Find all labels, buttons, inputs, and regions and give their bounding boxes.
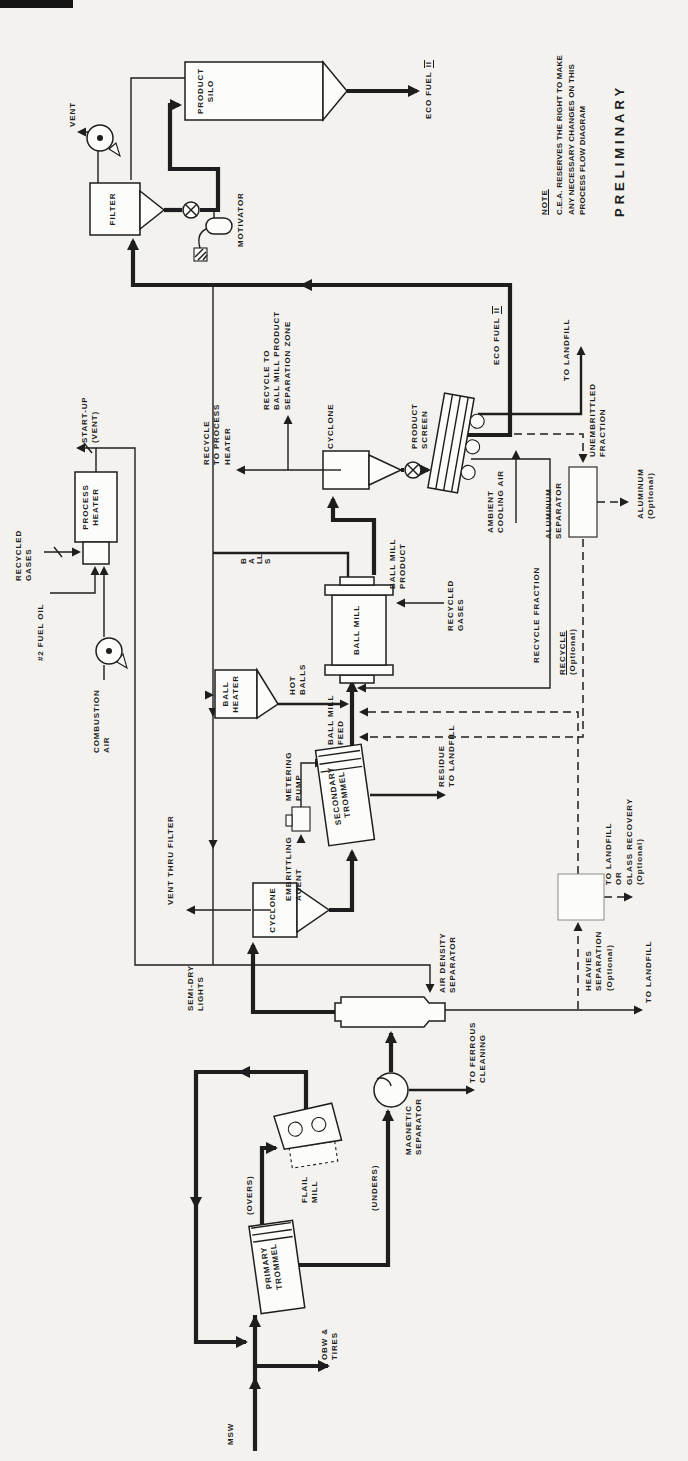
air-density-separator-label: AIR DENSITY SEPARATOR xyxy=(438,932,459,993)
recycled-gases-to-heater-line xyxy=(44,547,81,557)
ferrous-line xyxy=(409,1086,475,1095)
filter xyxy=(90,183,164,235)
silo-vent-line xyxy=(131,78,185,180)
semi-dry-lights-label: SEMI-DRY LIGHTS xyxy=(186,965,207,1011)
filter-label: FILTER xyxy=(108,183,118,235)
aluminum-separator xyxy=(569,467,597,537)
air-density-separator xyxy=(335,997,445,1027)
residue-line xyxy=(370,791,446,800)
cyclone-1-label: CYCLONE xyxy=(268,883,278,937)
product-silo-label: PRODUCT SILO xyxy=(196,62,217,120)
cyclone-2-label: CYCLONE xyxy=(326,404,336,449)
process-heater-label: PROCESS HEATER xyxy=(81,472,102,542)
balls-label: BALLS xyxy=(240,554,273,564)
scanned-process-flow-diagram: MSW OBW & TIRES PRIMARY TROMMEL (OVERS) … xyxy=(0,0,688,1461)
to-landfill-screen-label: TO LANDFILL xyxy=(562,319,572,381)
product-screen xyxy=(428,393,488,495)
to-ferrous-cleaning-label: TO FERROUS CLEANING xyxy=(468,1022,489,1083)
glass-recovery-line xyxy=(604,893,633,902)
heavies-separation-label: HEAVIES SEPARATION (Optional) xyxy=(584,931,615,991)
aluminum-optional-label: ALUMINUM (Optional) xyxy=(636,468,657,519)
eco-fuel-numeral: II xyxy=(424,60,434,68)
heavies-recycle-line xyxy=(359,708,578,875)
recycle-fraction-label: RECYCLE FRACTION xyxy=(532,567,542,663)
balls-return-line xyxy=(213,553,348,577)
ball-mill-product-line xyxy=(327,496,374,575)
vent-thru-filter-line xyxy=(186,906,251,915)
ambient-cooling-air-line xyxy=(512,450,521,523)
unders-label: (UNDERS) xyxy=(370,1165,380,1211)
fuel-oil-line xyxy=(50,566,100,593)
eco-fuel-duct-label: ECO FUELII xyxy=(492,306,502,365)
diagram-canvas: MSW OBW & TIRES PRIMARY TROMMEL (OVERS) … xyxy=(0,0,688,1461)
overs-line xyxy=(262,1142,278,1229)
semi-dry-lights-line xyxy=(247,942,335,1012)
recycle-to-process-heater-label: RECYCLE TO PROCESS HEATER xyxy=(202,404,233,465)
preliminary-stamp: PRELIMINARY xyxy=(612,84,629,217)
heavies-separation-box xyxy=(558,874,604,920)
ball-mill-product-label: BALL MILL PRODUCT xyxy=(388,539,409,589)
overs-label: (OVERS) xyxy=(245,1175,255,1215)
rotary-valve-filter xyxy=(183,202,199,218)
combustion-air-blower xyxy=(96,638,127,668)
motivator-label: MOTIVATOR xyxy=(236,192,246,247)
ball-mill-feed-line xyxy=(346,680,358,747)
aluminum-separator-label: ALUMINUM SEPARATOR xyxy=(544,482,565,539)
unembrittled-fraction-label: UNEMBRITTLED FRACTION xyxy=(588,383,609,457)
flail-mill xyxy=(273,1103,344,1170)
scan-artifact xyxy=(0,0,73,8)
magnetic-separator xyxy=(374,1073,408,1107)
recycle-optional-word: RECYCLE xyxy=(558,630,567,675)
combustion-air-label: COMBUSTION AIR xyxy=(92,689,113,753)
ball-mill-feed-label: BALL MILL FEED xyxy=(326,695,347,745)
recycled-gases-heater-label: RECYCLED GASES xyxy=(14,530,35,581)
eco-fuel-text: ECO FUEL xyxy=(492,317,501,365)
vent-thru-filter-label: VENT THRU FILTER xyxy=(166,815,176,905)
heavies-to-landfill-line xyxy=(445,1006,643,1015)
msw-feed-line xyxy=(249,1315,330,1451)
embrittling-agent-label: EMBRITTLING AGENT xyxy=(284,836,305,901)
cyclone2-gas-lines xyxy=(236,415,323,475)
vent-label: VENT xyxy=(68,102,78,127)
recycled-gases-to-mill-line xyxy=(396,599,444,608)
note-title: NOTE xyxy=(540,189,550,215)
ball-mill-label: BALL MILL xyxy=(352,595,362,665)
cyclone-2 xyxy=(323,451,401,489)
fuel-oil-label: #2 FUEL OIL xyxy=(36,604,46,661)
motivator xyxy=(194,210,232,261)
ambient-cooling-air-label: AMBIENT COOLING AIR xyxy=(486,470,507,533)
metering-pump xyxy=(286,807,310,831)
rotary-valve-screen xyxy=(405,462,421,478)
flail-mill-label: FLAIL MILL xyxy=(300,1176,321,1203)
aluminum-product-line xyxy=(597,498,629,507)
residue-to-landfill-label: RESIDUE TO LANDFILL xyxy=(437,725,458,787)
silo-discharge-line xyxy=(347,85,420,97)
magnetic-separator-label: MAGNETIC SEPARATOR xyxy=(404,1098,425,1155)
to-landfill-or-glass-label: TO LANDFILL OR GLASS RECOVERY (Optional) xyxy=(604,798,646,885)
recycled-gases-mill-label: RECYCLED GASES xyxy=(446,580,467,631)
to-landfill-heavies-label: TO LANDFILL xyxy=(644,941,654,1003)
eco-fuel-product-label: ECO FUELII xyxy=(424,60,434,119)
hot-balls-label: HOT BALLS xyxy=(288,664,309,695)
cyclone1-to-trommel2-line xyxy=(329,849,358,910)
msw-label: MSW xyxy=(226,1423,236,1445)
note-body: C.E.A. RESERVES THE RIGHT TO MAKE ANY NE… xyxy=(554,55,589,215)
recycle-optional-label: RECYCLE(Optional) xyxy=(558,628,579,675)
ball-heater-label: BALL HEATER xyxy=(221,670,242,718)
heavies-separation-feed-line xyxy=(574,922,583,1009)
exhaust-fan xyxy=(87,125,120,156)
recycle-optional-paren: (Optional) xyxy=(568,628,577,675)
recycled-gas-header-line xyxy=(205,285,218,965)
eco-fuel-text: ECO FUEL xyxy=(424,71,433,119)
eco-fuel-numeral: II xyxy=(492,306,502,314)
recycle-to-separation-zone-label: RECYCLE TO BALL MILL PRODUCT SEPARATION … xyxy=(262,311,293,410)
metering-pump-label: METERING PUMP xyxy=(284,752,305,801)
product-screen-label: PRODUCT SCREEN xyxy=(410,403,431,449)
startup-vent-label: START-UP (VENT) xyxy=(80,396,101,443)
magsep-to-ads-line xyxy=(385,1031,397,1072)
obw-tires-label: OBW & TIRES xyxy=(320,1328,341,1360)
